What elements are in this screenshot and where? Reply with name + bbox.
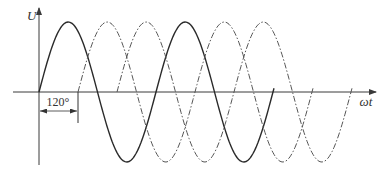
phase-shift-label: 120° xyxy=(47,95,70,109)
three-phase-waveform-diagram: 120° U ωt xyxy=(0,0,388,171)
y-axis-label: U xyxy=(27,8,38,23)
x-axis-label: ωt xyxy=(360,94,373,109)
